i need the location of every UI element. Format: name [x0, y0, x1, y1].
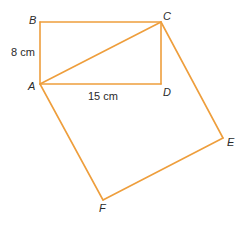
- edge-CE: [161, 22, 223, 138]
- vertex-label-F: F: [99, 202, 107, 214]
- vertex-label-D: D: [163, 86, 171, 98]
- vertex-label-B: B: [29, 14, 36, 26]
- vertex-label-C: C: [163, 10, 171, 22]
- geometry-diagram: B C A D E F 8 cm 15 cm: [0, 0, 246, 225]
- measurement-AD: 15 cm: [88, 90, 118, 102]
- vertex-label-A: A: [27, 80, 35, 92]
- measurement-AB: 8 cm: [11, 46, 35, 58]
- edge-EF: [103, 138, 223, 200]
- vertex-label-E: E: [227, 136, 235, 148]
- diagonal-AC: [40, 22, 161, 84]
